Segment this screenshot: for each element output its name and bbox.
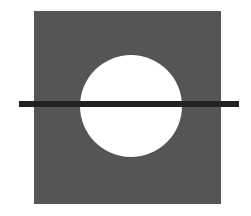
horizontal-line (19, 101, 239, 107)
diagram-canvas (0, 0, 251, 216)
